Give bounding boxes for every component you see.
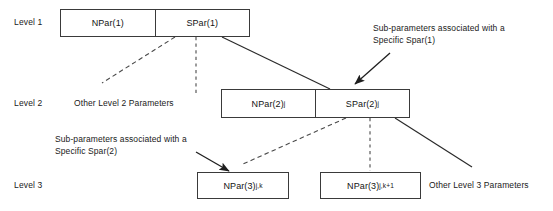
parameter-hierarchy-diagram: Level 1 Level 2 Level 3 NPar(1) SPar(1) … bbox=[0, 0, 553, 211]
node-npar-1: NPar(1) bbox=[61, 10, 155, 36]
level3-box-2: NPar(3)j,k+1 bbox=[320, 172, 421, 199]
connector-annot-spar1-arrow bbox=[355, 53, 390, 84]
node-npar-2-j-label: NPar(2) bbox=[252, 99, 284, 109]
level2-box: NPar(2)j SPar(2)j bbox=[221, 89, 410, 118]
annotation-sub-params-spar-2-line-2: Specific Spar(2) bbox=[55, 146, 187, 158]
level3-box-1: NPar(3)j,k bbox=[197, 172, 289, 199]
annotation-sub-params-spar-1-line-1: Sub-parameters associated with a bbox=[373, 23, 505, 35]
node-npar-1-label: NPar(1) bbox=[92, 18, 124, 28]
level-1-label: Level 1 bbox=[14, 17, 42, 27]
connector-spar2-to-other-level3 bbox=[395, 118, 472, 167]
connector-spar1-to-level2-box bbox=[222, 37, 330, 89]
node-npar-3-jk1-label: NPar(3) bbox=[347, 181, 379, 191]
annotation-sub-params-spar-2-line-1: Sub-parameters associated with a bbox=[55, 134, 187, 146]
node-spar-1: SPar(1) bbox=[155, 10, 250, 36]
node-npar-2-j: NPar(2)j bbox=[222, 90, 315, 117]
level-2-label: Level 2 bbox=[14, 98, 42, 108]
annotation-other-level-2-parameters: Other Level 2 Parameters bbox=[74, 98, 174, 110]
connector-annot-spar2-arrow bbox=[196, 152, 229, 171]
level1-box: NPar(1) SPar(1) bbox=[60, 9, 250, 37]
annotation-sub-params-spar-1-line-2: Specific Spar(1) bbox=[373, 35, 505, 47]
connector-spar2-to-level3-box-1 bbox=[243, 118, 346, 164]
node-npar-3-jk-label: NPar(3) bbox=[223, 181, 255, 191]
level-3-label: Level 3 bbox=[14, 180, 42, 190]
node-spar-2-j-label: SPar(2) bbox=[346, 99, 378, 109]
node-spar-1-label: SPar(1) bbox=[186, 18, 218, 28]
node-spar-2-j: SPar(2)j bbox=[315, 90, 409, 117]
annotation-other-level-3-parameters: Other Level 3 Parameters bbox=[429, 180, 529, 192]
annotation-sub-params-spar-2: Sub-parameters associated with a Specifi… bbox=[55, 134, 187, 157]
connector-spar1-to-other-level2 bbox=[102, 37, 175, 83]
annotation-sub-params-spar-1: Sub-parameters associated with a Specifi… bbox=[373, 23, 505, 46]
